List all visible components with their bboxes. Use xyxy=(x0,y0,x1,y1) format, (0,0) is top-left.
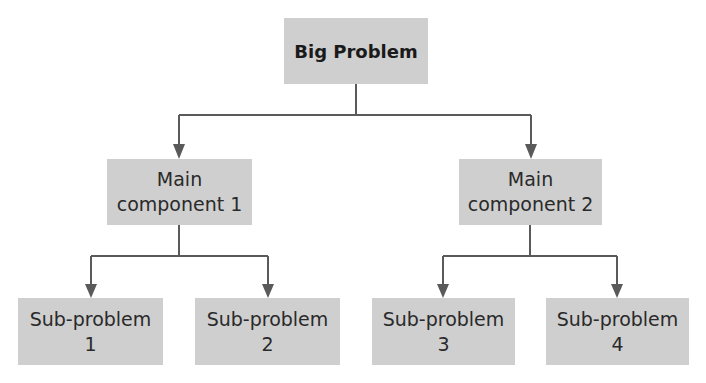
node-label-line2: 1 xyxy=(84,332,96,357)
node-label-line2: component 1 xyxy=(117,192,243,217)
node-label-line1: Main xyxy=(508,167,553,192)
node-label-line2: component 2 xyxy=(468,192,594,217)
node-label: Big Problem xyxy=(294,39,418,64)
node-label-line1: Sub-problem xyxy=(207,307,329,332)
arrowhead-sub2 xyxy=(262,284,274,298)
arrowhead-sub3 xyxy=(437,284,449,298)
node-label-line1: Sub-problem xyxy=(557,307,679,332)
arrowhead-sub1 xyxy=(85,284,97,298)
arrowhead-sub4 xyxy=(611,284,623,298)
node-main-component-1: Main component 1 xyxy=(107,159,252,225)
arrowhead-main2 xyxy=(525,144,537,159)
node-label-line2: 3 xyxy=(437,332,449,357)
node-big-problem: Big Problem xyxy=(284,18,428,84)
node-label-line2: 2 xyxy=(261,332,273,357)
node-sub-problem-2: Sub-problem 2 xyxy=(195,298,340,365)
node-label-line2: 4 xyxy=(611,332,623,357)
node-sub-problem-3: Sub-problem 3 xyxy=(372,298,515,365)
node-main-component-2: Main component 2 xyxy=(459,159,602,225)
node-label-line1: Sub-problem xyxy=(383,307,505,332)
node-sub-problem-1: Sub-problem 1 xyxy=(18,298,163,365)
node-label-line1: Main xyxy=(157,167,202,192)
node-sub-problem-4: Sub-problem 4 xyxy=(546,298,689,365)
node-label-line1: Sub-problem xyxy=(30,307,152,332)
arrowhead-main1 xyxy=(173,144,185,159)
